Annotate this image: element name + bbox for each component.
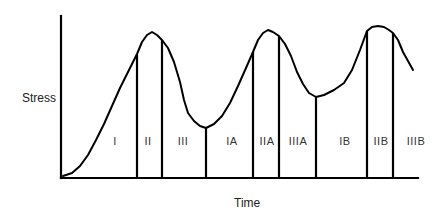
- phase-label-ib: IB: [339, 135, 350, 147]
- phase-label-iiib: IIIB: [407, 135, 426, 147]
- stress-time-diagram: [0, 0, 439, 216]
- phase-label-iii: III: [178, 135, 189, 147]
- phase-label-i: I: [113, 135, 117, 147]
- phase-label-iiia: IIIA: [289, 135, 308, 147]
- x-axis-label: Time: [234, 196, 260, 210]
- phase-label-ia: IA: [226, 135, 237, 147]
- phase-dividers: [137, 31, 393, 178]
- phase-label-iib: IIB: [374, 135, 389, 147]
- y-axis-label: Stress: [22, 91, 56, 105]
- phase-label-iia: IIA: [260, 135, 275, 147]
- stress-curve: [63, 26, 413, 176]
- phase-label-ii: II: [144, 135, 151, 147]
